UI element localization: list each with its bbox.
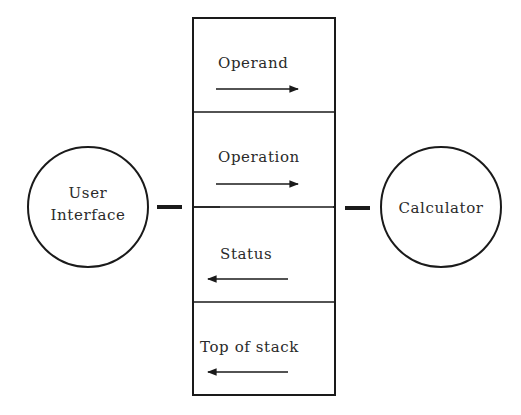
user-interface-label-line1: User	[69, 184, 108, 202]
cell-status-label: Status	[220, 245, 272, 263]
cell-top-of-stack: Top of stack	[200, 338, 299, 372]
calculator-label: Calculator	[398, 199, 483, 217]
interface-box: Operand Operation Status Top of stack	[193, 18, 335, 395]
cell-top-of-stack-label: Top of stack	[200, 338, 299, 356]
diagram-canvas: User Interface Operand Operation Status …	[0, 0, 521, 415]
cell-operand-label: Operand	[218, 54, 288, 72]
cell-operation: Operation	[216, 148, 300, 184]
calculator-node: Calculator	[381, 147, 501, 267]
cell-operation-label: Operation	[218, 148, 300, 166]
cell-operand: Operand	[216, 54, 298, 89]
user-interface-node: User Interface	[28, 147, 148, 267]
cell-status: Status	[208, 245, 288, 279]
user-interface-label-line2: Interface	[51, 206, 126, 224]
